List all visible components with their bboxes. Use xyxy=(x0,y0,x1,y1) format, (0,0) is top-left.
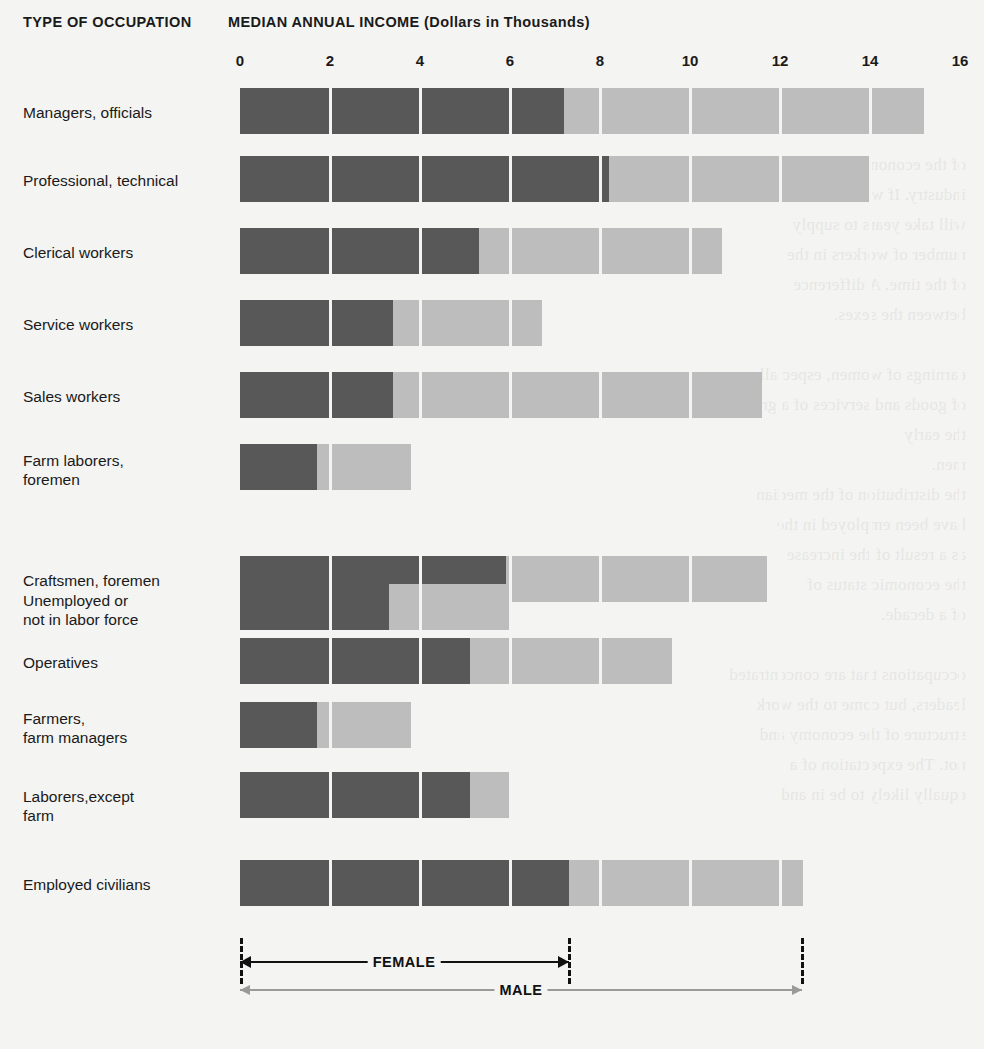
bar-row xyxy=(240,584,510,630)
x-tick-10: 10 xyxy=(682,52,699,69)
bar-segment-female xyxy=(240,88,564,134)
category-label: Service workers xyxy=(23,315,223,334)
gridline-14 xyxy=(869,88,872,928)
category-label: Farm laborers, foremen xyxy=(23,451,223,489)
bar-row xyxy=(240,88,924,134)
bar-segment-female xyxy=(240,702,317,748)
chart-right-title: MEDIAN ANNUAL INCOME (Dollars in Thousan… xyxy=(228,14,590,30)
chart-left-title: TYPE OF OCCUPATION xyxy=(23,14,192,30)
bar-segment-female xyxy=(240,638,470,684)
bar-row xyxy=(240,860,803,906)
category-label: Laborers,except farm xyxy=(23,787,223,825)
gridline-6 xyxy=(509,88,512,928)
x-tick-12: 12 xyxy=(772,52,789,69)
gridline-12 xyxy=(779,88,782,928)
x-tick-14: 14 xyxy=(862,52,879,69)
gridline-10 xyxy=(689,88,692,928)
bar-segment-female xyxy=(240,584,389,630)
gridline-8 xyxy=(599,88,602,928)
bar-row xyxy=(240,300,542,346)
bar-row xyxy=(240,444,411,490)
x-tick-6: 6 xyxy=(506,52,514,69)
income-by-occupation-chart: TYPE OF OCCUPATION MEDIAN ANNUAL INCOME … xyxy=(0,0,984,1049)
bar-row xyxy=(240,638,672,684)
bar-segment-female xyxy=(240,300,393,346)
category-label: Professional, technical xyxy=(23,171,223,190)
x-tick-16: 16 xyxy=(952,52,969,69)
x-tick-4: 4 xyxy=(416,52,424,69)
legend-label-male: MALE xyxy=(494,982,547,998)
bar-segment-female xyxy=(240,860,569,906)
bar-row xyxy=(240,702,411,748)
category-label: Unemployed or not in labor force xyxy=(23,591,223,629)
x-tick-0: 0 xyxy=(236,52,244,69)
bar-row xyxy=(240,372,762,418)
category-label: Employed civilians xyxy=(23,875,223,894)
bar-segment-female xyxy=(240,372,393,418)
bar-segment-female xyxy=(240,228,479,274)
category-label: Managers, officials xyxy=(23,103,223,122)
x-tick-8: 8 xyxy=(596,52,604,69)
category-label: Operatives xyxy=(23,653,223,672)
gridline-16 xyxy=(959,88,962,928)
category-label: Clerical workers xyxy=(23,243,223,262)
bar-segment-female xyxy=(240,444,317,490)
category-label: Sales workers xyxy=(23,387,223,406)
bar-row xyxy=(240,228,722,274)
category-label: Farmers, farm managers xyxy=(23,709,223,747)
gridline-2 xyxy=(329,88,332,928)
legend-tick-male-end xyxy=(801,938,804,984)
category-label: Craftsmen, foremen xyxy=(23,571,223,590)
bar-segment-female xyxy=(240,772,470,818)
bar-row xyxy=(240,772,510,818)
gridline-4 xyxy=(419,88,422,928)
x-tick-2: 2 xyxy=(326,52,334,69)
legend-label-female: FEMALE xyxy=(368,954,441,970)
bar-row xyxy=(240,156,870,202)
bar-segment-female xyxy=(240,156,609,202)
